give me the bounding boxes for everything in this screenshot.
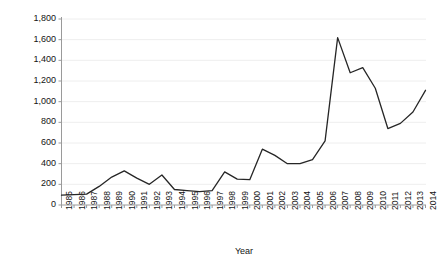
chart-figure: Number of stories 02004006008001,0001,20… [0, 0, 448, 262]
gridlines [62, 19, 427, 184]
line-chart-plot [0, 0, 448, 262]
data-series-line [62, 38, 426, 196]
y-axis [59, 17, 62, 205]
x-axis [62, 205, 427, 208]
